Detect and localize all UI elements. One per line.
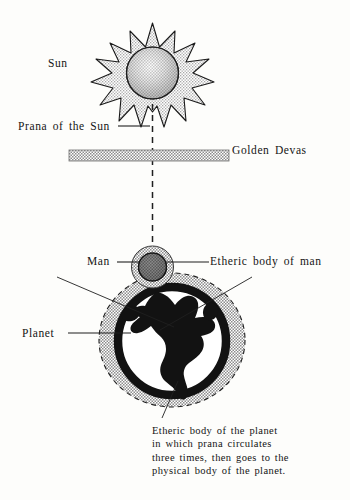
golden-devas-band [69, 150, 229, 161]
diagram-page: Sun Prana of the Sun Golden Devas Man Et… [0, 0, 350, 500]
caption-etheric-body-of-planet: Etheric body of the planet in which pran… [152, 424, 289, 477]
caption-line-1: Etheric body of the planet [152, 424, 289, 437]
caption-line-4: physical body of the planet. [152, 464, 289, 477]
label-golden-devas: Golden Devas [232, 144, 307, 158]
label-prana-of-the-sun: Prana of the Sun [18, 120, 110, 134]
sun-core-texture [127, 48, 177, 98]
label-planet: Planet [22, 327, 54, 341]
caption-line-2: in which prana circulates [152, 437, 289, 450]
label-sun: Sun [48, 57, 68, 71]
caption-line-3: three times, then goes to the [152, 451, 289, 464]
label-etheric-body-of-man: Etheric body of man [210, 255, 322, 269]
planet-earth [118, 287, 226, 400]
label-man: Man [87, 255, 110, 269]
man-core-texture [139, 254, 166, 281]
sun-figure [91, 23, 214, 127]
man-figure [132, 246, 174, 288]
